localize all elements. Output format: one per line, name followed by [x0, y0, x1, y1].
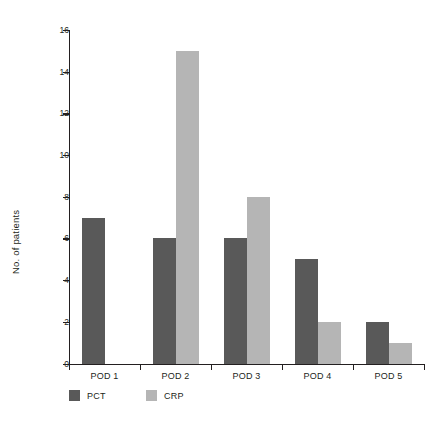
- x-tick-mark: [353, 364, 354, 370]
- x-tick-mark: [140, 364, 141, 370]
- x-axis-line: [69, 364, 424, 365]
- legend-label-pct: PCT: [87, 391, 106, 401]
- bar-pct-pod-4: [295, 259, 318, 363]
- x-tick-mark: [211, 364, 212, 370]
- bar-crp-pod-2: [176, 51, 199, 364]
- legend-swatch-pct: [69, 390, 80, 401]
- bar-pct-pod-3: [224, 238, 247, 363]
- legend-label-crp: CRP: [164, 391, 184, 401]
- bar-crp-pod-3: [247, 197, 270, 364]
- x-tick-label-pod-3: POD 3: [212, 371, 282, 381]
- bar-crp-pod-4: [318, 322, 341, 364]
- x-tick-label-pod-4: POD 4: [283, 371, 353, 381]
- bar-pct-pod-1: [82, 218, 105, 364]
- bar-crp-pod-5: [389, 343, 412, 364]
- chart-legend: PCTCRP: [69, 390, 224, 401]
- bar-chart-figure: No. of patients 0246810121416 POD 1POD 2…: [0, 0, 438, 427]
- legend-item-crp: CRP: [146, 390, 184, 401]
- x-tick-mark: [282, 364, 283, 370]
- x-tick-label-pod-1: POD 1: [70, 371, 140, 381]
- bar-pct-pod-2: [153, 238, 176, 363]
- x-tick-label-pod-2: POD 2: [141, 371, 211, 381]
- y-axis-title: No. of patients: [10, 134, 21, 274]
- legend-item-pct: PCT: [69, 390, 106, 401]
- x-tick-label-pod-5: POD 5: [354, 371, 424, 381]
- bar-pct-pod-5: [366, 322, 389, 364]
- x-tick-mark: [69, 364, 70, 370]
- x-tick-mark: [424, 364, 425, 370]
- plot-area: [69, 30, 424, 364]
- legend-swatch-crp: [146, 390, 157, 401]
